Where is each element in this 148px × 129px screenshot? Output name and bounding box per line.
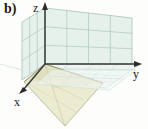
x-axis-label: x (14, 96, 20, 108)
y-axis-label: y (133, 68, 139, 80)
x-axis-arrowhead (19, 87, 27, 94)
z-axis-arrowhead (42, 2, 48, 10)
figure-canvas (0, 0, 148, 129)
panel-label: b) (4, 2, 16, 16)
z-axis-label: z (33, 2, 38, 14)
figure-3d-axes-panel-b: b) z x y (0, 0, 148, 129)
yz-plane-group (45, 8, 132, 64)
